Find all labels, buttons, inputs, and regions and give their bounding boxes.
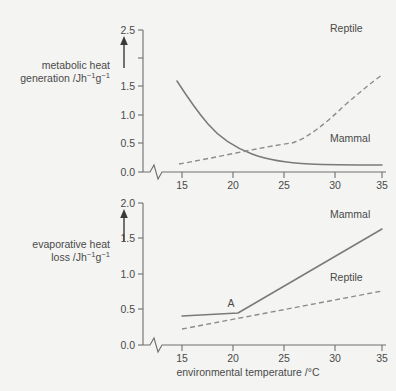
bottom-series-label-reptile: Reptile xyxy=(330,271,363,283)
bottom-xtick-label-20: 20 xyxy=(227,352,239,364)
bottom-x-axis-title-text: environmental temperature / xyxy=(176,366,307,378)
bottom-x-axis-title: environmental temperature /°C xyxy=(112,366,384,379)
bottom-ytick-label-0.0: 0.0 xyxy=(120,339,135,351)
bottom-series-reptile-line xyxy=(182,291,382,329)
bottom-y-axis-title: evaporative heat loss /Jh−1g−1 xyxy=(6,238,110,264)
top-series-label-mammal: Mammal xyxy=(330,132,370,144)
top-xtick-label-35: 35 xyxy=(376,179,388,191)
top-chart: 2.5 1.5 1.0 0.5 0.0 15 20 25 30 35 xyxy=(120,22,388,191)
bottom-series-label-mammal: Mammal xyxy=(330,208,370,220)
top-series-label-reptile: Reptile xyxy=(330,22,363,34)
bottom-ytick-label-1.5: 1.5 xyxy=(120,232,135,244)
bottom-x-axis-title-unit: °C xyxy=(308,366,320,378)
bottom-xtick-label-35: 35 xyxy=(376,352,388,364)
bottom-xtick-label-25: 25 xyxy=(278,352,290,364)
bottom-y-axis-title-sup2: −1 xyxy=(101,250,110,259)
bottom-xtick-label-30: 30 xyxy=(329,352,341,364)
bottom-y-axis-title-line1: evaporative heat xyxy=(32,238,110,250)
top-xtick-label-20: 20 xyxy=(227,179,239,191)
bottom-annotation-a: A xyxy=(227,297,234,309)
top-xtick-label-25: 25 xyxy=(278,179,290,191)
top-y-axis-title: metabolic heat generation /Jh−1g−1 xyxy=(6,59,110,85)
bottom-x-axis-with-break xyxy=(143,338,386,352)
top-ytick-label-0.0: 0.0 xyxy=(120,166,135,178)
bottom-ytick-label-0.5: 0.5 xyxy=(120,303,135,315)
top-series-mammal-line xyxy=(177,81,382,165)
bottom-chart: 2.0 1.5 1.0 0.5 0.0 15 20 25 30 35 xyxy=(120,197,388,364)
top-series-reptile-line xyxy=(179,75,382,164)
top-ytick-label-1.0: 1.0 xyxy=(120,109,135,121)
bottom-ytick-label-2.0: 2.0 xyxy=(120,197,135,209)
figure-container: 2.5 1.5 1.0 0.5 0.0 15 20 25 30 35 xyxy=(0,0,396,391)
top-x-axis-with-break xyxy=(143,165,386,179)
top-y-direction-arrow-icon xyxy=(120,36,128,68)
top-y-axis-title-line1: metabolic heat xyxy=(42,59,110,71)
top-y-axis-title-line2-pre: generation /Jh xyxy=(20,72,87,84)
top-ytick-label-1.5: 1.5 xyxy=(120,80,135,92)
top-ytick-label-2.5: 2.5 xyxy=(120,24,135,36)
top-ytick-label-0.5: 0.5 xyxy=(120,137,135,149)
bottom-ytick-label-1.0: 1.0 xyxy=(120,268,135,280)
bottom-y-axis-title-line2-pre: loss /Jh xyxy=(51,251,87,263)
top-y-axis-title-sup2: −1 xyxy=(101,71,110,80)
top-xtick-label-30: 30 xyxy=(329,179,341,191)
bottom-xtick-label-15: 15 xyxy=(176,352,188,364)
top-xtick-label-15: 15 xyxy=(176,179,188,191)
